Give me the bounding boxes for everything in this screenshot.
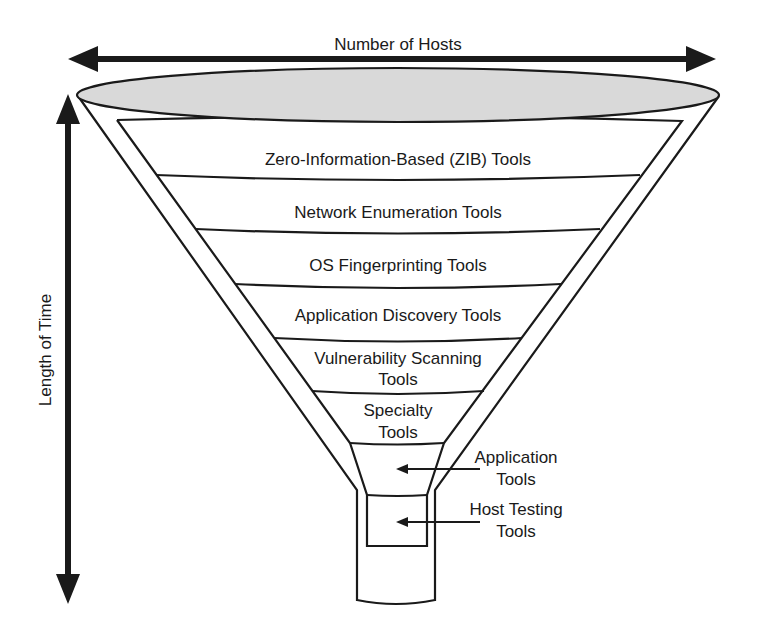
layer-application-discovery-label: Application Discovery Tools [295, 306, 502, 325]
funnel-diagram: Number of Hosts Length of Time Zero-Info… [0, 0, 762, 643]
funnel-opening [77, 68, 719, 122]
host-testing-tools-label-line2: Tools [496, 522, 536, 541]
layer-vulnerability-scanning-label-line2: Tools [378, 370, 418, 389]
layer-specialty-label-line1: Specialty [364, 401, 433, 420]
layer-specialty-label-line2: Tools [378, 423, 418, 442]
number-of-hosts-label: Number of Hosts [334, 35, 462, 54]
layer-os-fingerprinting-label: OS Fingerprinting Tools [309, 256, 486, 275]
application-tools-label-line1: Application [474, 448, 557, 467]
host-testing-tools-label-line1: Host Testing [469, 500, 562, 519]
layer-zib-label: Zero-Information-Based (ZIB) Tools [265, 150, 531, 169]
layer-vulnerability-scanning-label-line1: Vulnerability Scanning [314, 349, 482, 368]
application-tools-arrow [396, 464, 480, 474]
length-of-time-arrow [56, 94, 80, 604]
application-tools-label-line2: Tools [496, 470, 536, 489]
host-testing-tools-arrow [396, 517, 480, 527]
layer-network-enumeration-label: Network Enumeration Tools [294, 203, 502, 222]
length-of-time-label: Length of Time [36, 294, 55, 406]
layer-dividers [156, 175, 640, 496]
